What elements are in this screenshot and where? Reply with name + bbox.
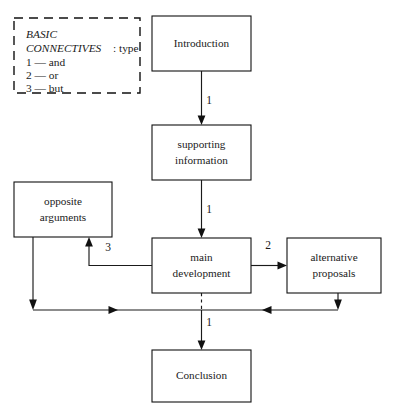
node-introduction[interactable]: Introduction: [152, 16, 251, 71]
node-conclusion-label: Conclusion: [176, 369, 227, 381]
edge-label-main-opposite: 3: [105, 241, 111, 253]
node-opposite-arguments-label-line2: arguments: [40, 211, 86, 223]
legend-item-1: 1 — and: [26, 56, 66, 68]
edge-supporting-to-main: 1: [198, 180, 213, 238]
edge-alternative-to-bottom-rail: [202, 293, 342, 314]
edge-label-intro-support: 1: [206, 94, 212, 106]
arrow-head-down-icon: [334, 300, 342, 311]
edge-polyline: [89, 243, 152, 266]
arrow-head-down-icon: [198, 116, 206, 126]
flowchart-svg: BASIC CONNECTIVES : type 1 — and 2 — or …: [0, 0, 395, 411]
flowchart-canvas: · · · BASIC CONNECTIVES : type 1 — and 2…: [0, 0, 395, 411]
node-main-development[interactable]: main development: [152, 238, 251, 293]
legend-title-line2: CONNECTIVES: [26, 42, 102, 54]
legend-title-tail: : type: [113, 42, 139, 54]
arrow-head-up-icon: [85, 237, 93, 247]
edge-label-main-alternative: 2: [265, 239, 271, 251]
node-opposite-arguments-box[interactable]: [14, 182, 112, 237]
node-introduction-label: Introduction: [174, 37, 230, 49]
edge-label-support-main: 1: [206, 203, 212, 215]
edge-main-to-opposite: 3: [85, 237, 152, 266]
node-conclusion[interactable]: Conclusion: [152, 350, 251, 402]
node-supporting-information-label-line2: information: [175, 154, 228, 166]
node-supporting-information-label-line1: supporting: [178, 138, 226, 150]
node-opposite-arguments-label-line1: opposite: [44, 195, 82, 207]
node-main-development-label-line2: development: [173, 267, 232, 279]
edge-main-to-alternative: 2: [251, 239, 287, 270]
node-alternative-proposals-label-line2: proposals: [313, 267, 356, 279]
node-supporting-information-box[interactable]: [152, 125, 251, 180]
edge-introduction-to-supporting: 1: [198, 71, 213, 125]
arrow-head-down-icon: [198, 341, 206, 351]
legend-group: BASIC CONNECTIVES : type 1 — and 2 — or …: [14, 18, 140, 94]
node-alternative-proposals-box[interactable]: [287, 238, 381, 293]
node-alternative-proposals[interactable]: alternative proposals: [287, 238, 381, 293]
legend-item-3: 3 — but: [26, 82, 64, 94]
arrow-head-down-icon: [198, 229, 206, 239]
edge-label-main-conclusion: 1: [206, 316, 212, 328]
arrow-head-left-icon: [262, 306, 272, 314]
arrow-head-right-icon: [109, 306, 119, 314]
arrow-head-right-icon: [278, 262, 288, 270]
arrow-head-down-icon: [29, 300, 37, 311]
node-main-development-label-line1: main: [190, 251, 213, 263]
edge-main-to-conclusion: 1: [198, 293, 213, 350]
node-supporting-information[interactable]: supporting information: [152, 125, 251, 180]
node-alternative-proposals-label-line1: alternative: [310, 251, 357, 263]
legend-item-2: 2 — or: [26, 69, 58, 81]
node-main-development-box[interactable]: [152, 238, 251, 293]
node-opposite-arguments[interactable]: opposite arguments: [14, 182, 112, 237]
legend-title-line1: BASIC: [26, 28, 57, 40]
